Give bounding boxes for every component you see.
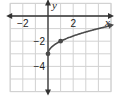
data-point: [58, 39, 63, 44]
x-tick-label: −2: [17, 18, 29, 29]
y-tick-label: −4: [34, 61, 46, 72]
x-axis-left-arrow: [6, 13, 12, 19]
graph: −22−2−4 x y: [0, 0, 116, 102]
y-axis-up-arrow: [45, 0, 51, 5]
y-tick-label: −2: [34, 36, 46, 47]
x-axis-label: x: [104, 16, 110, 28]
x-tick-label: 2: [70, 18, 76, 29]
y-axis-label: y: [51, 0, 57, 11]
y-axis-down-arrow: [45, 90, 51, 96]
data-point: [46, 51, 51, 56]
